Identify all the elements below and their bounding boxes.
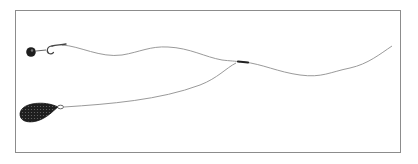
hooklength [62, 45, 240, 62]
sinker-icon [20, 103, 63, 122]
fishing-rig-diagram [0, 0, 418, 164]
mainline [244, 46, 392, 76]
sinker-link [64, 63, 236, 107]
bait-ball-icon [26, 47, 36, 57]
hook-icon [36, 44, 66, 54]
swivel-icon [238, 62, 248, 63]
